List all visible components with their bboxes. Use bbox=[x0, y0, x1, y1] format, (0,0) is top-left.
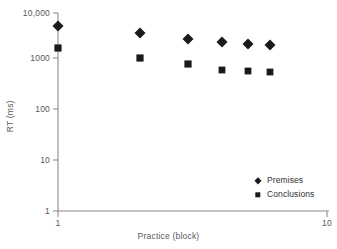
legend-item-premises: Premises bbox=[253, 176, 303, 185]
y-tick-label-1000: 1000 bbox=[0, 54, 50, 63]
data-point-conclusions bbox=[267, 69, 274, 76]
data-point-premises bbox=[52, 20, 63, 31]
data-point-premises bbox=[242, 38, 253, 49]
legend-label-conclusions: Conclusions bbox=[267, 190, 314, 199]
y-tick-label-1: 1 bbox=[0, 207, 50, 216]
x-axis-title: Practice (block) bbox=[0, 232, 337, 241]
x-axis-ticks bbox=[58, 211, 327, 217]
diamond-marker-icon bbox=[253, 176, 262, 185]
data-point-premises bbox=[216, 36, 227, 47]
y-tick-label-10: 10 bbox=[0, 156, 50, 165]
series-conclusions bbox=[54, 44, 273, 75]
chart-figure: 10,000 1000 100 10 1 1 10 RT (ms) Practi… bbox=[0, 0, 337, 249]
series-premises bbox=[52, 20, 275, 50]
data-point-conclusions bbox=[245, 68, 252, 75]
square-marker-icon bbox=[253, 190, 262, 199]
y-axis-ticks bbox=[53, 13, 58, 211]
y-tick-label-10000: 10,000 bbox=[0, 9, 50, 18]
data-point-conclusions bbox=[184, 60, 191, 67]
data-point-premises bbox=[264, 39, 275, 50]
legend-label-premises: Premises bbox=[267, 176, 303, 185]
data-point-conclusions bbox=[136, 54, 143, 61]
data-point-conclusions bbox=[219, 67, 226, 74]
x-tick-label-1: 1 bbox=[56, 219, 61, 228]
data-point-premises bbox=[134, 27, 145, 38]
plot-area bbox=[0, 0, 337, 249]
x-tick-label-10: 10 bbox=[322, 219, 332, 228]
data-point-conclusions bbox=[54, 44, 61, 51]
legend-item-conclusions: Conclusions bbox=[253, 190, 314, 199]
data-point-premises bbox=[182, 33, 193, 44]
y-axis-title: RT (ms) bbox=[6, 92, 15, 140]
